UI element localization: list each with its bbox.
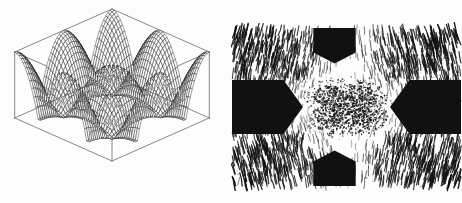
density-plot-canvas — [231, 0, 462, 203]
panel-2d-density-plot — [231, 0, 462, 203]
figure-container — [0, 0, 462, 203]
surface-plot-canvas — [0, 0, 231, 203]
panel-3d-surface-plot — [0, 0, 231, 203]
